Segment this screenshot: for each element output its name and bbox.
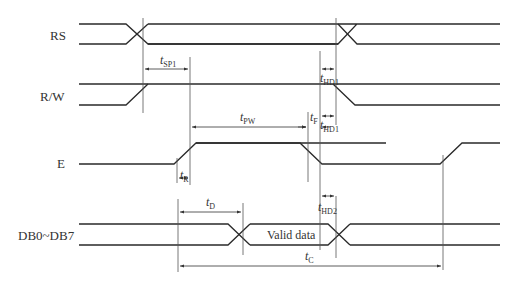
label-thd2: tHD2 bbox=[318, 200, 337, 216]
label-tpw: tPW bbox=[240, 110, 256, 126]
rs-waveform bbox=[79, 24, 500, 44]
label-tc: tC bbox=[305, 249, 314, 265]
signal-label-rs: RS bbox=[50, 28, 66, 43]
valid-data-label: Valid data bbox=[267, 228, 316, 242]
e-waveform bbox=[79, 143, 500, 164]
signal-label-rw: R/W bbox=[40, 89, 65, 104]
signal-label-e: E bbox=[57, 156, 65, 171]
label-td: tD bbox=[206, 195, 215, 211]
signal-label-db: DB0~DB7 bbox=[18, 228, 75, 243]
label-tr: tR bbox=[180, 168, 189, 184]
rw-waveform bbox=[79, 84, 500, 105]
label-tf: tF bbox=[310, 110, 318, 126]
label-tsp1: tSP1 bbox=[160, 53, 176, 69]
timing-diagram: RS R/W E DB0~DB7 Valid data bbox=[0, 0, 515, 291]
